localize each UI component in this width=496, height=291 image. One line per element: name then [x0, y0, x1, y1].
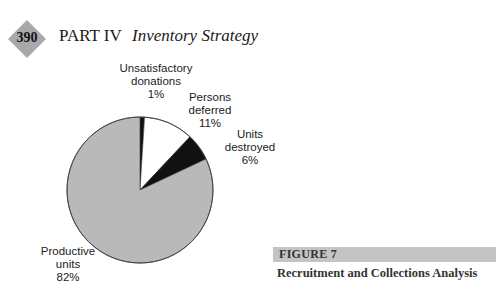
label-productive-units: Productive units 82% [28, 245, 108, 284]
label-persons-deferred: Persons deferred 11% [170, 91, 250, 130]
pie-slices [67, 117, 213, 263]
label-units-destroyed: Units destroyed 6% [200, 128, 300, 167]
figure-label-bar: FIGURE 7 [273, 247, 496, 262]
figure-caption: Recruitment and Collections Analysis [277, 266, 477, 281]
figure-label: FIGURE 7 [279, 247, 337, 262]
